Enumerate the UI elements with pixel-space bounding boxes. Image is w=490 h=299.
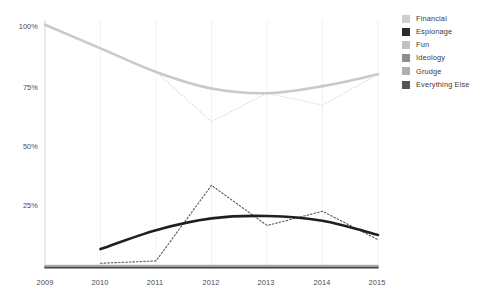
legend-label: Ideology xyxy=(416,54,445,61)
legend-item-grudge[interactable]: Grudge xyxy=(402,65,488,78)
legend-item-ideology[interactable]: Ideology xyxy=(402,52,488,65)
x-tick-label-2009: 2009 xyxy=(25,278,65,287)
x-tick-label-2010: 2010 xyxy=(80,278,120,287)
legend-swatch-icon xyxy=(402,81,410,89)
series-line-espionage xyxy=(101,216,379,249)
x-tick-label-2014: 2014 xyxy=(302,278,342,287)
chart-legend: Financial Espionage Fun Ideology Grudge … xyxy=(402,12,488,91)
y-tick-label-50: 50% xyxy=(8,142,38,151)
legend-swatch-icon xyxy=(402,15,410,23)
legend-swatch-icon xyxy=(402,41,410,49)
y-tick-label-25: 25% xyxy=(8,201,38,210)
legend-label: Espionage xyxy=(416,28,452,35)
x-tick-label-2013: 2013 xyxy=(246,278,286,287)
legend-item-fun[interactable]: Fun xyxy=(402,38,488,51)
legend-label: Everything Else xyxy=(416,81,470,88)
legend-label: Grudge xyxy=(416,68,442,75)
legend-label: Fun xyxy=(416,41,429,48)
legend-label: Financial xyxy=(416,15,447,22)
y-tick-label-100: 100% xyxy=(8,22,38,31)
legend-item-financial[interactable]: Financial xyxy=(402,12,488,25)
x-tick-label-2012: 2012 xyxy=(191,278,231,287)
legend-item-everything-else[interactable]: Everything Else xyxy=(402,78,488,91)
chart-container: 100% 75% 50% 25% 2009 2010 2011 2012 201… xyxy=(0,0,490,299)
gridlines-group xyxy=(101,20,379,268)
y-tick-label-75: 75% xyxy=(8,83,38,92)
legend-item-espionage[interactable]: Espionage xyxy=(402,25,488,38)
legend-swatch-icon xyxy=(402,28,410,36)
x-tick-label-2011: 2011 xyxy=(135,278,175,287)
x-tick-label-2015: 2015 xyxy=(357,278,397,287)
legend-swatch-icon xyxy=(402,54,410,62)
legend-swatch-icon xyxy=(402,67,410,75)
